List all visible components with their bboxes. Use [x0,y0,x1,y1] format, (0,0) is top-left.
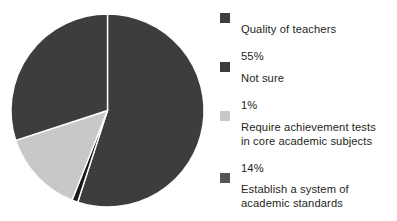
chart-legend: Quality of teachers 55% Not sure 1% Requ… [220,10,397,215]
legend-label-quality-of-teachers: Quality of teachers [241,23,336,36]
pie-slice-group [11,14,204,207]
legend-swatch-establish-system [220,173,230,183]
legend-item-establish-system[interactable]: Establish a system of academic standards… [220,170,349,221]
pie-chart-plot-area [0,0,215,221]
legend-swatch-require-achievement-tests [220,111,230,121]
pie-chart-figure: Quality of teachers 55% Not sure 1% Requ… [0,0,397,221]
legend-label-require-achievement-tests: Require achievement tests in core academ… [241,121,376,148]
legend-text-establish-system: Establish a system of academic standards… [241,170,349,221]
legend-label-not-sure: Not sure [241,72,284,85]
legend-swatch-quality-of-teachers [220,13,230,23]
legend-swatch-not-sure [220,62,230,72]
pie-chart-svg [0,0,215,221]
legend-label-establish-system: Establish a system of academic standards [241,183,349,210]
